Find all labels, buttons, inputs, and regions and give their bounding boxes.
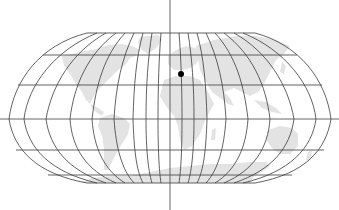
meridian-w40 (146, 33, 152, 183)
japan (280, 62, 286, 74)
madagascar (211, 128, 216, 140)
land-masses (62, 35, 312, 183)
meridian-w20 (158, 33, 161, 183)
europe (168, 46, 200, 70)
world-map (0, 0, 339, 210)
location-marker-dot[interactable] (178, 71, 184, 77)
central-america (90, 104, 104, 116)
